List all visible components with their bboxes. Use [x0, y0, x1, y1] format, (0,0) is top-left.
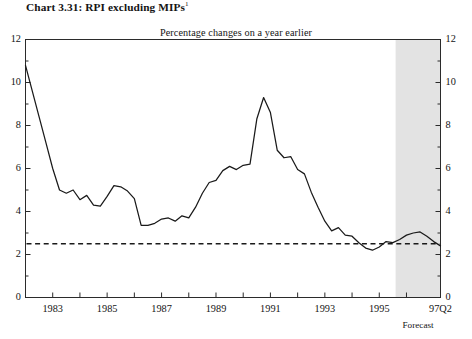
y-axis-label: 0 [0, 291, 21, 302]
y-axis-label: 6 [0, 162, 21, 173]
forecast-label: Forecast [402, 320, 433, 330]
y-axis-label-right: 6 [446, 162, 451, 173]
x-axis-label: 1991 [260, 303, 281, 314]
x-axis-label: 1993 [315, 303, 336, 314]
x-axis-label: 1995 [369, 303, 390, 314]
y-axis-label-right: 2 [446, 248, 451, 259]
y-axis-label-right: 8 [446, 119, 451, 130]
forecast-region [396, 40, 441, 298]
y-axis-label-right: 4 [446, 205, 451, 216]
y-axis-label-right: 0 [446, 291, 451, 302]
x-axis-label: 1989 [206, 303, 227, 314]
chart-container: Chart 3.31: RPI excluding MIPs1 Percenta… [0, 0, 472, 339]
y-axis-label: 12 [0, 33, 21, 44]
y-axis-label-right: 10 [446, 76, 456, 87]
chart-plot-svg [0, 0, 472, 339]
x-axis-label: 1987 [151, 303, 172, 314]
y-axis-label: 8 [0, 119, 21, 130]
y-axis-label: 4 [0, 205, 21, 216]
y-axis-label: 10 [0, 76, 21, 87]
y-axis-label-right: 12 [446, 33, 456, 44]
x-axis-label: 97Q2 [429, 303, 452, 314]
x-axis-label: 1983 [42, 303, 63, 314]
y-axis-label: 2 [0, 248, 21, 259]
series-line-0 [26, 65, 441, 250]
x-axis-label: 1985 [97, 303, 118, 314]
